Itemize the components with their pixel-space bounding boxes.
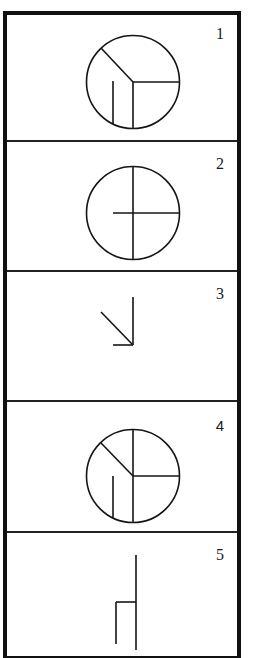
panel-3-figure bbox=[101, 297, 133, 345]
panel-2-figure bbox=[87, 167, 180, 260]
panel-3-diagonal-line bbox=[101, 312, 133, 345]
panel-1-diagonal-line bbox=[101, 48, 133, 82]
panel-1-figure bbox=[87, 36, 180, 129]
panel-4-figure bbox=[87, 430, 180, 523]
diagram-figures bbox=[0, 0, 253, 658]
panel-5-figure bbox=[116, 555, 136, 650]
panel-4-diagonal-line bbox=[101, 443, 133, 476]
